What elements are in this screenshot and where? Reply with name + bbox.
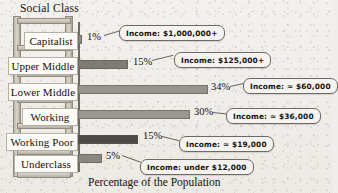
callout-working: Income: ≈ $36,000 bbox=[226, 108, 321, 124]
callout-leader bbox=[230, 83, 244, 87]
class-label-capitalist: Capitalist bbox=[24, 32, 78, 50]
pct-label-working-poor: 15% bbox=[143, 130, 162, 141]
pct-label-working: 30% bbox=[194, 106, 213, 117]
callout-leader bbox=[213, 112, 227, 114]
callout-lower-middle: Income: ≈ $60,000 bbox=[243, 78, 338, 94]
class-label-working-poor: Working Poor bbox=[6, 133, 78, 151]
callout-leader bbox=[104, 31, 120, 36]
callout-leader bbox=[152, 55, 174, 61]
ladder-rung bbox=[17, 18, 71, 24]
bar-underclass bbox=[78, 154, 102, 163]
pct-label-upper-middle: 15% bbox=[133, 56, 152, 67]
callout-underclass: Income: under $12,000 bbox=[140, 159, 254, 175]
class-label-working: Working bbox=[22, 108, 78, 126]
callout-working-poor: Income: ≈ $19,000 bbox=[179, 136, 274, 152]
class-label-lower-middle: Lower Middle bbox=[8, 83, 78, 101]
pct-label-lower-middle: 34% bbox=[211, 81, 230, 92]
value-axis-line bbox=[78, 22, 80, 172]
bar-lower-middle bbox=[78, 85, 208, 94]
pct-label-capitalist: 1% bbox=[87, 31, 101, 42]
y-axis-title: Social Class bbox=[20, 2, 79, 14]
callout-capitalist: Income: $1,000,000+ bbox=[119, 25, 225, 41]
callout-leader bbox=[162, 136, 180, 141]
class-label-underclass: Underclass bbox=[14, 155, 78, 173]
bar-upper-middle bbox=[78, 60, 128, 69]
class-label-upper-middle: Upper Middle bbox=[8, 57, 78, 75]
callout-leader bbox=[122, 155, 141, 163]
callout-upper-middle: Income: $125,000+ bbox=[174, 52, 271, 68]
x-axis-title: Percentage of the Population bbox=[88, 176, 221, 188]
pct-label-underclass: 5% bbox=[106, 150, 120, 161]
bar-working-poor bbox=[78, 135, 138, 144]
bar-working bbox=[78, 110, 190, 119]
bar-capitalist bbox=[78, 35, 82, 44]
